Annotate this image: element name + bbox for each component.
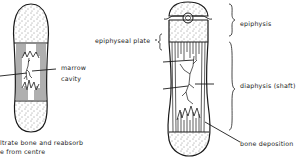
epiphyseal-plate-label: epiphyseal plate xyxy=(95,37,150,45)
diaphysis-label: diaphysis (shaft) xyxy=(240,82,296,90)
epiphysis-label: epiphysis xyxy=(240,20,271,28)
left-caption: ltrate bone and reabsorb e from centre xyxy=(0,139,83,156)
left-caption-line1: ltrate bone and reabsorb xyxy=(0,139,83,147)
marrow-cavity-label: marrow cavity xyxy=(61,64,86,83)
marrow-cavity-label-line1: marrow xyxy=(61,64,86,72)
left-caption-line2: e from centre xyxy=(0,148,83,156)
right-bone xyxy=(158,2,240,156)
left-bone xyxy=(0,4,56,132)
bone-deposition-label: bone deposition xyxy=(240,140,294,148)
marrow-cavity-label-line2: cavity xyxy=(61,75,86,83)
